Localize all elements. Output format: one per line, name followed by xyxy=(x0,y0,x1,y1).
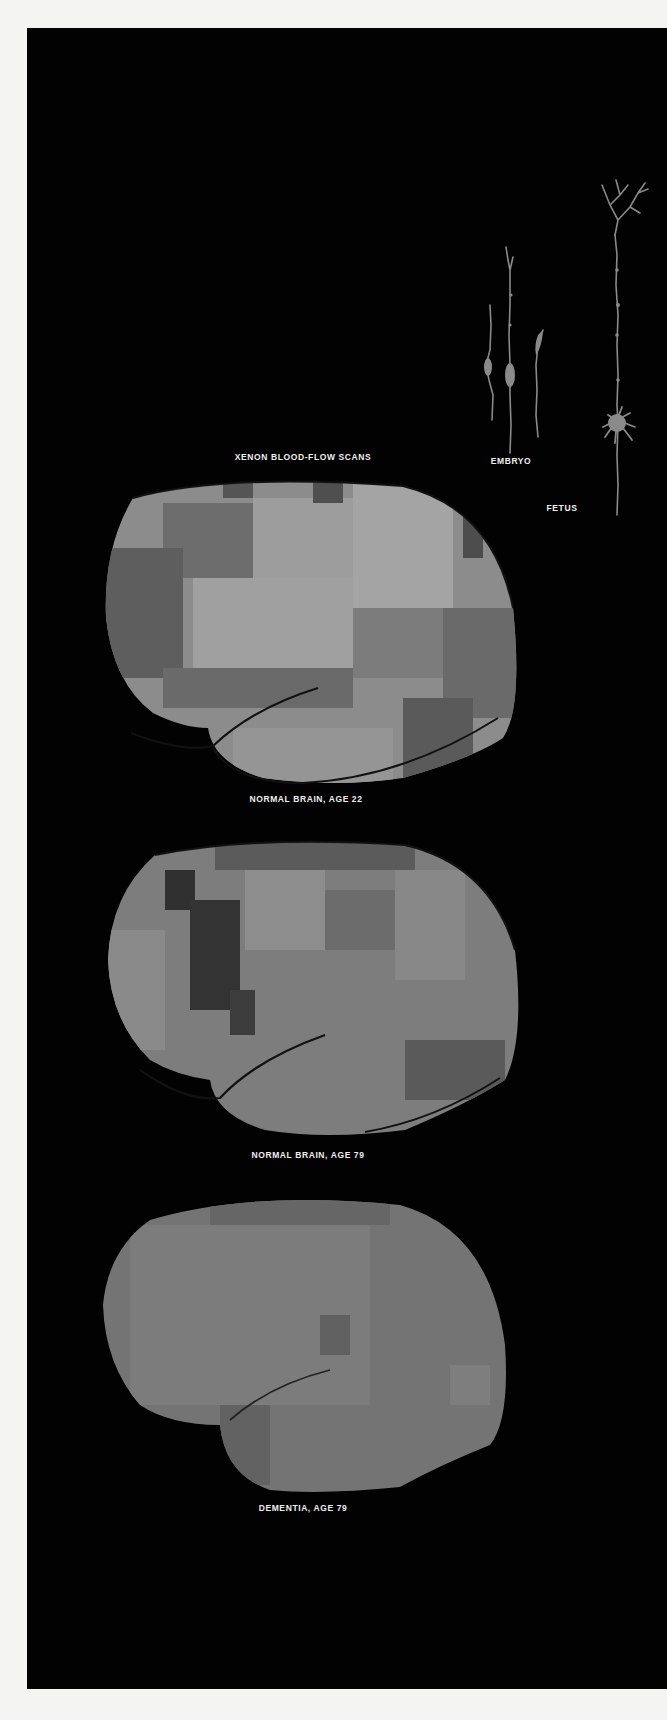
brain-scan-image-icon xyxy=(100,1195,520,1495)
neuron-label-fetus: FETUS xyxy=(547,503,578,513)
neuron-label-embryo: EMBRYO xyxy=(491,456,532,466)
brain-scan-image-icon xyxy=(103,478,523,788)
brain-scan-age-79 xyxy=(105,840,525,1140)
brain-scan-image-icon xyxy=(105,840,525,1140)
brain-scan-age-22 xyxy=(103,478,523,788)
figure-title: XENON BLOOD-FLOW SCANS xyxy=(235,452,371,462)
scan-caption-dementia: DEMENTIA, AGE 79 xyxy=(259,1503,348,1513)
neuron-illustrations xyxy=(470,175,651,529)
neuron-drawings-icon xyxy=(470,175,651,525)
scan-caption-age-79: NORMAL BRAIN, AGE 79 xyxy=(251,1150,364,1160)
brain-scan-dementia xyxy=(100,1195,520,1495)
scan-caption-age-22: NORMAL BRAIN, AGE 22 xyxy=(249,794,362,804)
